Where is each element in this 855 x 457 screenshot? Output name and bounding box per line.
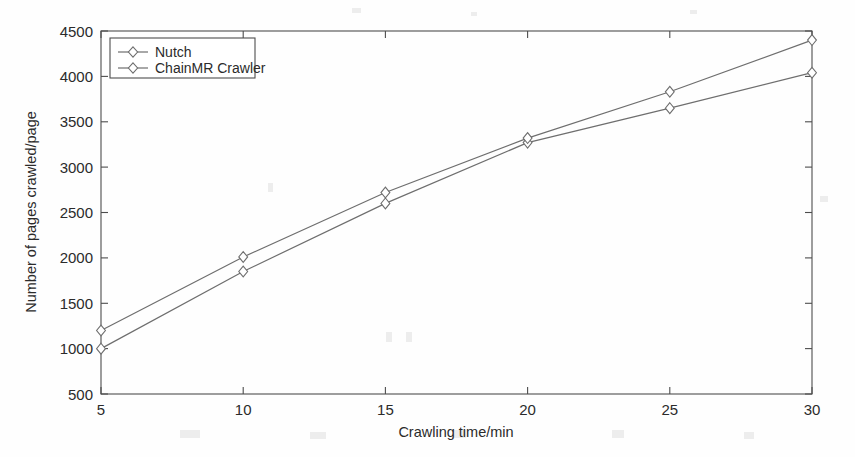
y-tick-label: 3500 [60, 113, 93, 130]
y-tick-label: 4500 [60, 23, 93, 40]
y-axis-title: Number of pages crawled/page [23, 111, 39, 313]
x-tick-label: 25 [661, 401, 678, 418]
data-point-marker [665, 86, 674, 97]
data-point-marker [808, 35, 817, 46]
x-tick-label: 10 [235, 401, 252, 418]
series-line-chainmr-crawler [101, 40, 812, 330]
line-chart: 500 1000 1500 2000 2500 3000 3500 4000 4… [0, 0, 855, 457]
x-axis-title: Crawling time/min [398, 424, 513, 440]
legend: Nutch ChainMR Crawler [110, 38, 266, 78]
series-nutch [97, 67, 817, 354]
x-tick-label: 5 [97, 401, 105, 418]
legend-label-chainmr: ChainMR Crawler [155, 60, 266, 76]
data-point-marker [665, 103, 674, 114]
data-series-layer [97, 35, 817, 354]
data-point-marker [381, 187, 390, 198]
series-chainmr-crawler [97, 35, 817, 336]
y-tick-label: 2500 [60, 204, 93, 221]
x-tick-label: 20 [519, 401, 536, 418]
y-tick-label: 2000 [60, 249, 93, 266]
series-line-nutch [101, 73, 812, 349]
data-point-marker [239, 266, 248, 277]
x-tick-label: 15 [377, 401, 394, 418]
y-tick-label: 4000 [60, 68, 93, 85]
x-tick-labels: 5 10 15 20 25 30 [97, 401, 821, 418]
plot-frame [101, 31, 812, 394]
y-tick-label: 1500 [60, 295, 93, 312]
y-axis-ticks [101, 31, 812, 394]
y-tick-labels: 500 1000 1500 2000 2500 3000 3500 4000 4… [60, 23, 93, 403]
y-tick-label: 500 [68, 386, 93, 403]
y-tick-label: 1000 [60, 340, 93, 357]
data-point-marker [97, 343, 106, 354]
data-point-marker [381, 198, 390, 209]
y-tick-label: 3000 [60, 159, 93, 176]
data-point-marker [239, 252, 248, 263]
x-tick-label: 30 [804, 401, 821, 418]
chart-figure: 500 1000 1500 2000 2500 3000 3500 4000 4… [0, 0, 855, 457]
legend-label-nutch: Nutch [155, 44, 192, 60]
x-axis-ticks [101, 31, 812, 394]
data-point-marker [97, 325, 106, 336]
scan-artifacts [180, 8, 828, 439]
